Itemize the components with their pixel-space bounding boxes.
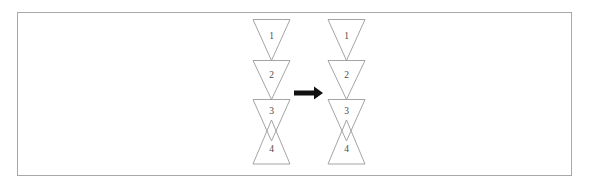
diagram-stage: 12341234 — [0, 0, 589, 190]
figure-root: 12341234 — [0, 0, 589, 190]
transformation-arrow — [294, 87, 323, 100]
triangle-label-right-panel-2: 2 — [344, 70, 349, 80]
triangle-right-panel-4 — [328, 120, 365, 164]
triangle-diagram-svg: 12341234 — [0, 0, 589, 190]
triangle-label-left-panel-1: 1 — [269, 31, 274, 41]
triangle-label-right-panel-3: 3 — [344, 106, 349, 116]
arrow-layer — [294, 87, 323, 100]
triangle-left-panel-4 — [253, 120, 290, 164]
triangle-label-left-panel-2: 2 — [269, 70, 274, 80]
triangle-label-left-panel-4: 4 — [269, 144, 274, 154]
triangle-label-right-panel-1: 1 — [344, 31, 349, 41]
triangle-label-right-panel-4: 4 — [344, 144, 349, 154]
triangle-label-left-panel-3: 3 — [269, 106, 274, 116]
